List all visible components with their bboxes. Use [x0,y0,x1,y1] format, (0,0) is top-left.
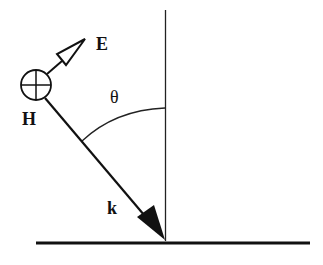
angle-arc [82,108,165,141]
k-vector-line [45,98,150,222]
label-k: k [107,198,117,218]
label-h: H [22,109,36,129]
h-field-out-of-plane-icon [21,70,51,100]
e-vector-line [47,61,62,74]
diagram-canvas: E H θ k [0,0,323,265]
label-theta: θ [110,87,119,107]
label-e: E [96,34,108,54]
